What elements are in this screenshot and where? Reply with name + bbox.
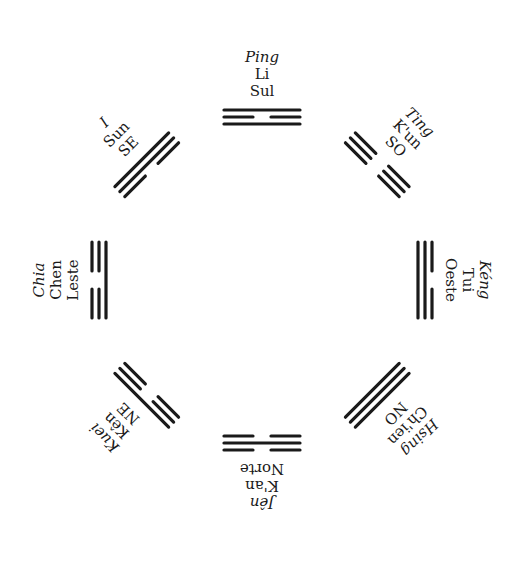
trigram-sul: PingLiSul bbox=[224, 48, 300, 124]
trigram-title-label: Tui bbox=[459, 268, 477, 293]
trigram-title-label: K'an bbox=[245, 477, 279, 495]
yin-line bbox=[350, 138, 371, 159]
yin-line bbox=[379, 176, 400, 197]
bagua-diagram: PingLiSulTingK'unSOKéngTuiOesteHsingCh'i… bbox=[0, 0, 526, 583]
yin-line bbox=[158, 397, 179, 418]
yin-line bbox=[345, 143, 366, 164]
yin-line bbox=[384, 171, 405, 192]
direction-label: Sul bbox=[250, 82, 275, 100]
trigram-name-label: Chia bbox=[30, 263, 48, 298]
yin-line bbox=[158, 143, 179, 164]
direction-label: Oeste bbox=[442, 258, 460, 302]
trigram-title-label: Li bbox=[255, 65, 270, 83]
direction-label: Leste bbox=[64, 259, 82, 301]
yin-line bbox=[355, 133, 376, 154]
trigram-no: HsingCh'ienNO bbox=[345, 363, 452, 470]
trigram-name-label: Jên bbox=[250, 494, 278, 512]
trigram-title-label: Chen bbox=[47, 260, 65, 300]
trigram-se: ISunSE bbox=[71, 89, 178, 196]
direction-label: Norte bbox=[240, 460, 284, 478]
trigram-name-label: Ping bbox=[244, 48, 279, 66]
yin-line bbox=[125, 176, 146, 197]
yin-line bbox=[125, 363, 146, 384]
trigram-so: TingK'unSO bbox=[345, 89, 452, 196]
trigram-name-label: Kéng bbox=[476, 260, 494, 300]
trigram-oeste: KéngTuiOeste bbox=[418, 242, 494, 318]
yin-line bbox=[120, 368, 141, 389]
yin-line bbox=[153, 402, 174, 423]
yin-line bbox=[389, 166, 410, 187]
trigram-ne: KueiKênNE bbox=[71, 363, 178, 470]
trigram-leste: ChiaChenLeste bbox=[30, 242, 106, 318]
trigram-norte: JênK'anNorte bbox=[224, 436, 300, 512]
